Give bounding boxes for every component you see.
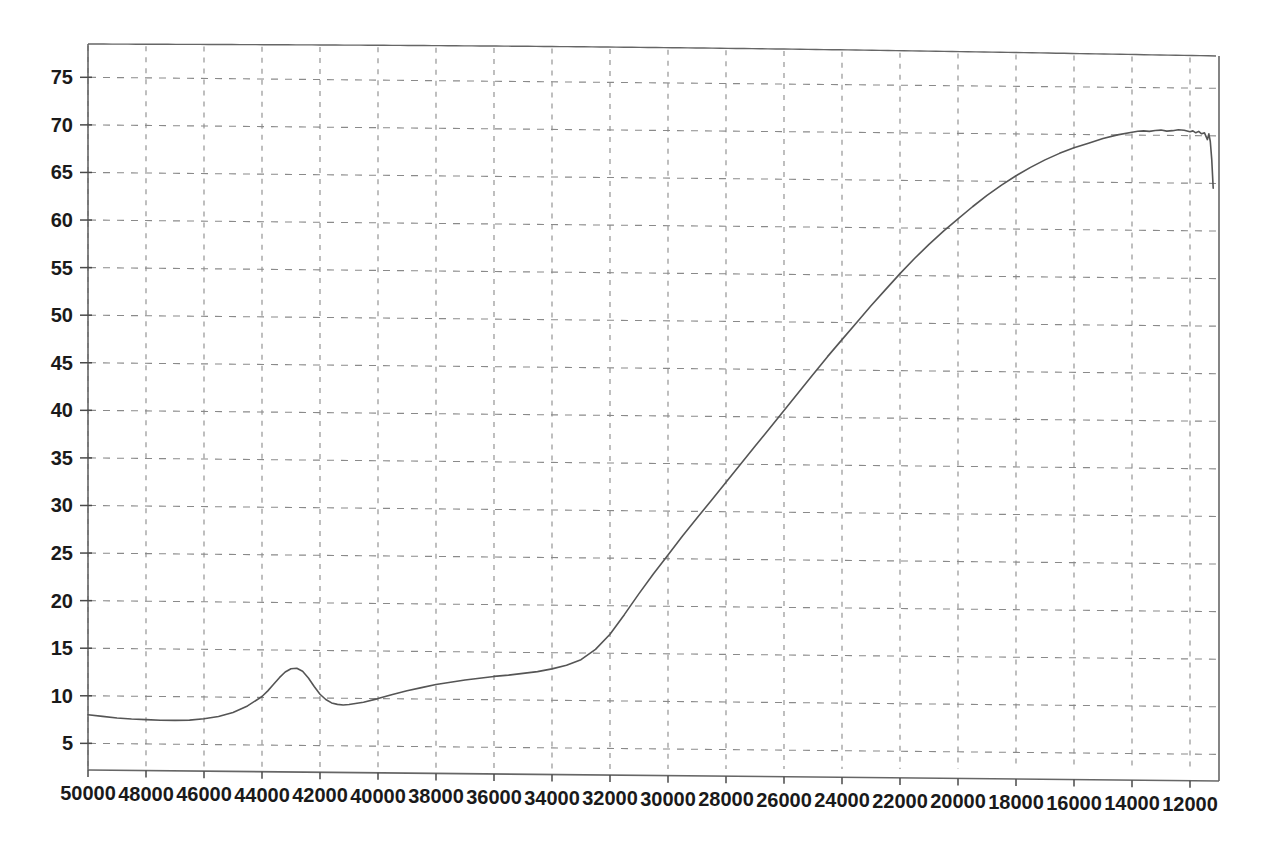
chart-container: 5101520253035404550556065707550000480004… bbox=[0, 0, 1272, 844]
y-tick-label: 60 bbox=[51, 209, 73, 231]
x-tick-label: 48000 bbox=[118, 783, 174, 805]
y-tick-label: 75 bbox=[51, 66, 73, 88]
y-tick-label: 55 bbox=[51, 257, 73, 279]
y-tick-label: 25 bbox=[51, 542, 73, 564]
x-tick-label: 22000 bbox=[872, 790, 928, 812]
x-tick-label: 24000 bbox=[814, 789, 870, 811]
y-tick-label: 35 bbox=[51, 447, 73, 469]
y-tick-label: 15 bbox=[51, 637, 73, 659]
x-tick-label: 14000 bbox=[1104, 792, 1160, 814]
x-tick-label: 18000 bbox=[988, 791, 1044, 813]
x-tick-label: 26000 bbox=[756, 789, 812, 811]
x-tick-label: 38000 bbox=[408, 785, 464, 807]
x-tick-label: 50000 bbox=[60, 782, 116, 804]
x-tick-label: 42000 bbox=[292, 784, 348, 806]
y-tick-label: 10 bbox=[51, 685, 73, 707]
x-tick-label: 32000 bbox=[582, 787, 638, 809]
x-tick-label: 12000 bbox=[1162, 793, 1218, 815]
y-tick-label: 70 bbox=[51, 114, 73, 136]
x-tick-label: 36000 bbox=[466, 786, 522, 808]
y-tick-label: 40 bbox=[51, 399, 73, 421]
x-tick-label: 34000 bbox=[524, 787, 580, 809]
spectrum-plot: 5101520253035404550556065707550000480004… bbox=[0, 0, 1272, 844]
plot-background bbox=[0, 0, 1272, 844]
x-tick-label: 44000 bbox=[234, 784, 290, 806]
y-tick-label: 65 bbox=[51, 161, 73, 183]
y-tick-label: 5 bbox=[62, 732, 73, 754]
y-tick-label: 45 bbox=[51, 352, 73, 374]
x-tick-label: 40000 bbox=[350, 785, 406, 807]
y-tick-label: 50 bbox=[51, 304, 73, 326]
x-tick-label: 30000 bbox=[640, 788, 696, 810]
y-tick-label: 30 bbox=[51, 494, 73, 516]
y-tick-label: 20 bbox=[51, 590, 73, 612]
x-tick-label: 16000 bbox=[1046, 792, 1102, 814]
x-tick-label: 28000 bbox=[698, 788, 754, 810]
x-tick-label: 20000 bbox=[930, 790, 986, 812]
x-tick-label: 46000 bbox=[176, 783, 232, 805]
